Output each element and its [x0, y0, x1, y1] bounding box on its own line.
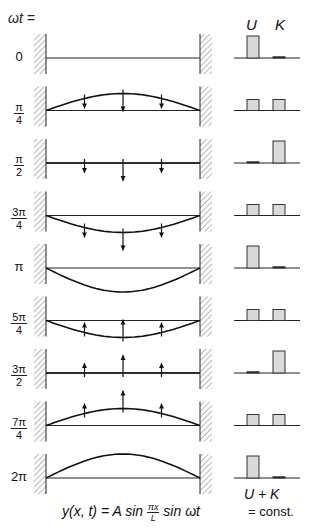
- potential-energy-bar: [247, 100, 259, 111]
- wave-snapshots-svg: [0, 0, 316, 532]
- potential-energy-bar: [247, 456, 259, 478]
- equation-fraction: πxL: [147, 502, 160, 523]
- row-phase-label: 0: [4, 49, 34, 64]
- wave-row: [34, 297, 300, 342]
- arrow-head-icon: [159, 232, 164, 237]
- wave-row: [34, 349, 300, 389]
- left-wall: [34, 34, 46, 74]
- left-wall: [34, 349, 46, 389]
- potential-energy-bar: [247, 246, 259, 268]
- potential-energy-bar: [247, 162, 259, 163]
- row-phase-label: π2: [4, 151, 34, 178]
- kinetic-energy-bar: [273, 351, 285, 373]
- wave-curve: [46, 268, 200, 292]
- left-wall: [34, 244, 46, 284]
- left-wall: [34, 192, 46, 232]
- right-wall: [200, 87, 212, 127]
- equation-rhs: sin ωt: [163, 503, 200, 519]
- wave-row: [34, 87, 300, 127]
- kinetic-energy-bar: [273, 415, 285, 426]
- arrow-head-icon: [82, 404, 87, 409]
- right-wall: [200, 244, 212, 284]
- wave-row: [34, 192, 300, 251]
- wave-curve: [46, 454, 200, 478]
- energy-const-label: = const.: [248, 504, 294, 519]
- arrow-head-icon: [121, 245, 126, 250]
- potential-energy-bar: [247, 310, 259, 321]
- kinetic-energy-bar: [273, 141, 285, 163]
- right-wall: [200, 349, 212, 389]
- row-phase-label: π4: [4, 99, 34, 126]
- wave-row: [34, 139, 300, 181]
- standing-wave-diagram: ωt = U K 0π4π23π4π5π43π27π42π y(x, t) = …: [0, 0, 316, 532]
- arrow-head-icon: [159, 404, 164, 409]
- row-phase-label: 3π2: [4, 361, 34, 388]
- potential-energy-bar: [247, 372, 259, 373]
- equation-lhs: y(x, t) = A sin: [62, 503, 143, 519]
- arrow-head-icon: [159, 363, 164, 368]
- wave-row: [34, 34, 300, 74]
- left-wall: [34, 87, 46, 127]
- row-phase-label: π: [4, 259, 34, 274]
- kinetic-energy-bar: [273, 477, 285, 478]
- kinetic-energy-bar: [273, 310, 285, 321]
- left-wall: [34, 454, 46, 494]
- kinetic-energy-bar: [273, 100, 285, 111]
- arrow-head-icon: [82, 232, 87, 237]
- potential-energy-bar: [247, 36, 259, 58]
- kinetic-energy-bar: [273, 205, 285, 216]
- kinetic-energy-bar: [273, 267, 285, 268]
- arrow-head-icon: [82, 322, 87, 327]
- right-wall: [200, 402, 212, 442]
- wave-row: [34, 244, 300, 292]
- right-wall: [200, 454, 212, 494]
- right-wall: [200, 192, 212, 232]
- potential-energy-bar: [247, 205, 259, 216]
- left-wall: [34, 297, 46, 337]
- arrow-head-icon: [159, 322, 164, 327]
- arrow-head-icon: [82, 104, 87, 109]
- row-phase-label: 7π4: [4, 414, 34, 441]
- right-wall: [200, 297, 212, 337]
- arrow-head-icon: [121, 391, 126, 396]
- wave-equation: y(x, t) = A sin πxL sin ωt: [62, 502, 200, 523]
- arrow-head-icon: [121, 176, 126, 181]
- row-phase-label: 2π: [4, 469, 34, 484]
- wave-row: [34, 391, 300, 442]
- arrow-head-icon: [82, 168, 87, 173]
- arrow-head-icon: [159, 168, 164, 173]
- arrow-head-icon: [159, 104, 164, 109]
- potential-energy-bar: [247, 415, 259, 426]
- kinetic-energy-bar: [273, 57, 285, 58]
- arrow-head-icon: [121, 355, 126, 360]
- left-wall: [34, 139, 46, 179]
- energy-sum-label: U + K: [244, 486, 279, 502]
- row-phase-label: 5π4: [4, 309, 34, 336]
- right-wall: [200, 34, 212, 74]
- left-wall: [34, 402, 46, 442]
- row-phase-label: 3π4: [4, 204, 34, 231]
- arrow-head-icon: [82, 363, 87, 368]
- right-wall: [200, 139, 212, 179]
